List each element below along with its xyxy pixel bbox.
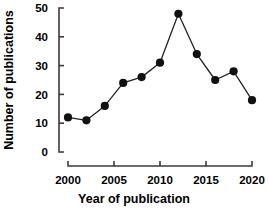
data-markers bbox=[64, 10, 256, 125]
data-point bbox=[193, 50, 201, 58]
plot-area bbox=[0, 0, 268, 213]
y-axis-spine bbox=[59, 8, 64, 152]
data-point bbox=[82, 116, 90, 124]
data-point bbox=[230, 67, 238, 75]
data-point bbox=[174, 10, 182, 18]
x-axis-spine bbox=[68, 161, 252, 166]
data-point bbox=[248, 96, 256, 104]
data-point bbox=[211, 76, 219, 84]
data-point bbox=[64, 113, 72, 121]
data-point bbox=[138, 73, 146, 81]
publications-line-chart: Number of publications Year of publicati… bbox=[0, 0, 268, 213]
data-line bbox=[68, 14, 252, 121]
data-point bbox=[156, 59, 164, 67]
data-point bbox=[119, 79, 127, 87]
data-point bbox=[101, 102, 109, 110]
